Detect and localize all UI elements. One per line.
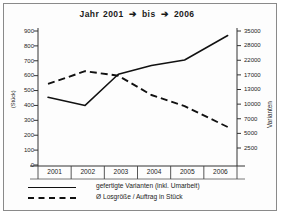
series-line-losgroesse: [48, 71, 228, 127]
left-tick-label: 500: [14, 87, 34, 93]
right-axis-label: Varianten: [266, 101, 273, 128]
left-tick-label: 600: [14, 72, 34, 78]
x-tick-label-2001: 2001: [39, 168, 71, 175]
legend-label-dashed: Ø Losgröße / Auftrag in Stück: [96, 193, 183, 200]
left-tick-label: 100: [14, 147, 34, 153]
series-line-gefertigte-varianten: [48, 36, 228, 106]
x-tick-label-2005: 2005: [171, 168, 203, 175]
x-tick-label-2003: 2003: [105, 168, 137, 175]
right-tick-label: 28000: [244, 42, 261, 48]
left-tick-label: 300: [14, 117, 34, 123]
legend-item-dashed: Ø Losgröße / Auftrag in Stück: [0, 193, 274, 204]
right-tick-label: 7000: [244, 116, 257, 122]
left-tick-label: 0: [14, 162, 34, 168]
chart-legend: gefertigte Varianten (inkl. Umarbeit) Ø …: [0, 182, 274, 204]
right-tick-label: 5000: [244, 130, 257, 136]
right-tick-label: 35000: [244, 28, 261, 34]
left-axis-ticks: [34, 31, 38, 165]
legend-item-solid: gefertigte Varianten (inkl. Umarbeit): [0, 182, 274, 193]
x-tick-label-2006: 2006: [204, 168, 236, 175]
right-axis-ticks: [237, 31, 241, 148]
left-tick-label: 200: [14, 132, 34, 138]
legend-swatch-solid: [28, 187, 76, 188]
right-tick-label: 10000: [244, 101, 261, 107]
legend-label-solid: gefertigte Varianten (inkl. Umarbeit): [96, 182, 200, 189]
right-tick-label: 22000: [244, 57, 261, 63]
left-tick-label: 400: [14, 102, 34, 108]
x-tick-label-2002: 2002: [72, 168, 104, 175]
chart-svg: [0, 0, 274, 208]
plot-area: [0, 0, 274, 208]
right-tick-label: 17000: [244, 72, 261, 78]
right-tick-label: 2500: [244, 145, 257, 151]
left-tick-label: 900: [14, 28, 34, 34]
legend-swatch-dashed: [28, 197, 76, 199]
x-tick-label-2004: 2004: [138, 168, 170, 175]
left-tick-label: 800: [14, 43, 34, 49]
left-tick-label: 700: [14, 58, 34, 64]
right-tick-label: 13000: [244, 86, 261, 92]
